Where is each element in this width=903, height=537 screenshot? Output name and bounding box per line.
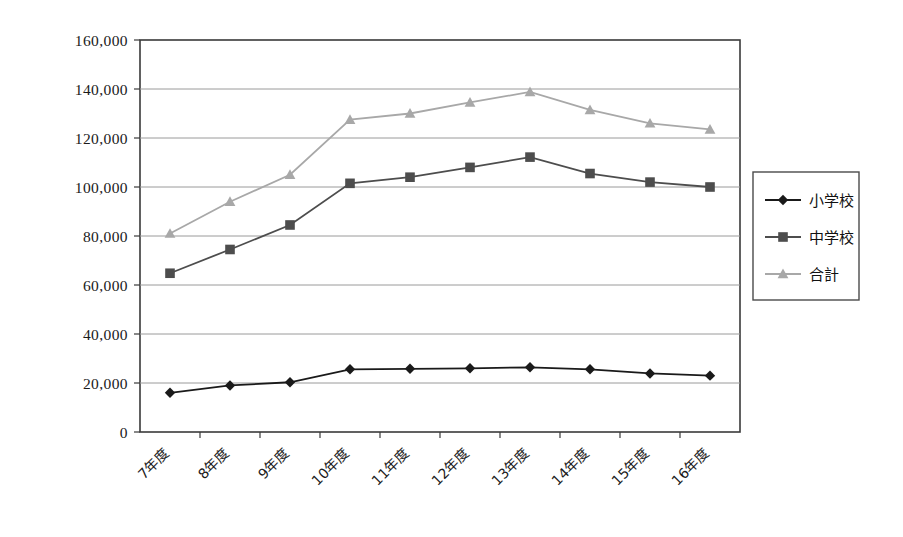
y-axis: 020,00040,00060,00080,000100,000120,0001… (75, 32, 140, 441)
data-point-square (225, 245, 235, 255)
y-tick-label: 60,000 (83, 277, 128, 294)
legend-label-square: 中学校 (809, 229, 854, 247)
x-tick-label: 11年度 (368, 445, 412, 489)
data-point-square (405, 172, 415, 182)
y-tick-label: 140,000 (75, 81, 128, 98)
legend-label-diamond: 小学校 (809, 192, 854, 210)
data-point-square (585, 169, 595, 179)
data-point-square (645, 177, 655, 187)
y-tick-label: 40,000 (83, 326, 128, 343)
y-tick-label: 120,000 (75, 130, 128, 147)
x-tick-label: 12年度 (428, 445, 472, 489)
y-tick-label: 100,000 (75, 179, 128, 196)
y-tick-label: 20,000 (83, 375, 128, 392)
x-tick-label: 16年度 (668, 445, 712, 489)
data-point-square (165, 268, 175, 278)
x-tick-label: 15年度 (608, 445, 652, 489)
y-tick-label: 0 (120, 424, 128, 441)
data-point-square (778, 232, 788, 242)
legend-label-triangle: 合計 (809, 266, 839, 284)
y-tick-label: 160,000 (75, 32, 128, 49)
x-tick-label: 7年度 (135, 445, 172, 482)
y-tick-label: 80,000 (83, 228, 128, 245)
x-tick-label: 8年度 (195, 445, 232, 482)
x-tick-label: 13年度 (488, 445, 532, 489)
data-point-square (525, 152, 535, 162)
data-point-square (705, 182, 715, 192)
line-chart: 020,00040,00060,00080,000100,000120,0001… (0, 0, 903, 537)
data-point-square (345, 179, 355, 189)
chart-legend: 小学校中学校合計 (753, 172, 859, 300)
x-tick-label: 14年度 (548, 445, 592, 489)
data-point-square (285, 220, 295, 230)
data-point-square (465, 163, 475, 173)
x-axis: 7年度8年度9年度10年度11年度12年度13年度14年度15年度16年度 (135, 432, 712, 489)
x-tick-label: 10年度 (308, 445, 352, 489)
x-tick-label: 9年度 (255, 445, 292, 482)
chart-canvas: 020,00040,00060,00080,000100,000120,0001… (0, 0, 903, 537)
